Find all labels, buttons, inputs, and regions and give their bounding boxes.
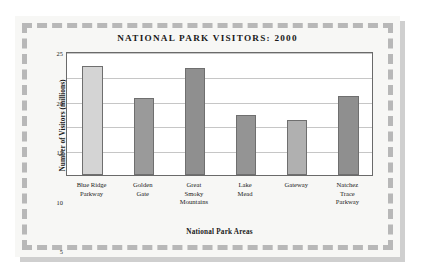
category-label-line: Gateway xyxy=(271,181,322,190)
category-labels: Blue RidgeParkwayGoldenGateGreatSmokyMou… xyxy=(66,181,373,227)
bar xyxy=(338,96,358,175)
bar xyxy=(236,115,256,175)
category-label-line: Parkway xyxy=(66,190,117,199)
y-tick-label: 20 xyxy=(57,99,63,106)
category-label: Blue RidgeParkway xyxy=(66,181,117,198)
category-label-line: Smoky xyxy=(168,190,219,199)
category-label-line: Trace xyxy=(322,190,373,199)
category-label: LakeMead xyxy=(220,181,271,198)
y-tick-label: 15 xyxy=(57,149,63,156)
category-label-line: Golden xyxy=(117,181,168,190)
bar xyxy=(287,120,307,175)
category-label-line: Natchez xyxy=(322,181,373,190)
category-label: GreatSmokyMountains xyxy=(168,181,219,207)
category-label-line: Mead xyxy=(220,190,271,199)
category-label-line: Parkway xyxy=(322,198,373,207)
category-label-line: Great xyxy=(168,181,219,190)
chart-screenshot: NATIONAL PARK VISITORS: 2000 Number of V… xyxy=(0,0,421,278)
x-axis-title: National Park Areas xyxy=(66,228,373,236)
category-label-line: Gate xyxy=(117,190,168,199)
category-label: GoldenGate xyxy=(117,181,168,198)
bars-layer xyxy=(67,53,372,175)
category-label-line: Mountains xyxy=(168,198,219,207)
bar xyxy=(134,98,154,175)
y-tick-label: 5 xyxy=(60,248,63,255)
chart-title: NATIONAL PARK VISITORS: 2000 xyxy=(28,33,387,43)
category-label: NatchezTraceParkway xyxy=(322,181,373,207)
plot-area: 510152025 xyxy=(66,52,373,176)
category-label-line: Lake xyxy=(220,181,271,190)
figure-inner: NATIONAL PARK VISITORS: 2000 Number of V… xyxy=(28,29,387,244)
y-tick-label: 10 xyxy=(57,198,63,205)
figure-card: NATIONAL PARK VISITORS: 2000 Number of V… xyxy=(15,16,400,257)
bar xyxy=(185,68,205,175)
category-label-line: Blue Ridge xyxy=(66,181,117,190)
bar xyxy=(82,66,102,175)
category-label: Gateway xyxy=(271,181,322,190)
y-tick-label: 25 xyxy=(57,50,63,57)
